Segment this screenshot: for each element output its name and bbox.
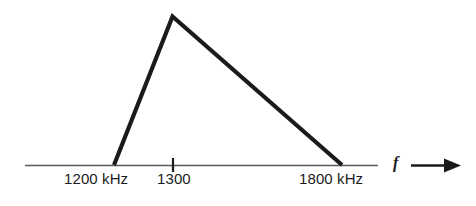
right-arrow-icon xyxy=(411,159,461,173)
spectrum-envelope-trace xyxy=(114,17,342,166)
axis-variable-label: f xyxy=(393,155,398,171)
axis-label-upper-edge: 1800 kHz xyxy=(299,171,363,187)
axis-label-center-frequency: 1300 xyxy=(157,171,191,187)
frequency-spectrum-figure: 1200 kHz 1300 1800 kHz f xyxy=(0,0,476,206)
axis-label-lower-edge: 1200 kHz xyxy=(64,171,128,187)
